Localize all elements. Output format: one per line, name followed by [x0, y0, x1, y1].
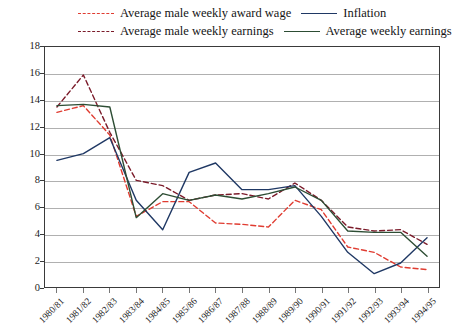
x-axis-tick-mark: [109, 288, 110, 293]
x-axis-tick-mark: [348, 288, 349, 293]
series-line: [57, 106, 427, 270]
x-axis-tick-mark: [83, 288, 84, 293]
legend-label: Average weekly earnings: [326, 24, 452, 38]
legend-item-average-weekly-earnings[interactable]: Average weekly earnings: [284, 24, 452, 38]
y-axis: 024681012141618: [0, 41, 40, 293]
y-axis-tick-label: 6: [0, 202, 40, 212]
legend-swatch-icon: [301, 13, 337, 14]
legend-label: Average male weekly award wage: [120, 6, 291, 20]
plot-area: [44, 46, 440, 288]
x-axis-tick-mark: [189, 288, 190, 293]
series-lines: [45, 47, 439, 287]
y-axis-tick-label: 14: [0, 95, 40, 105]
x-axis: 1980/811981/821982/831983/841984/851985/…: [44, 288, 440, 336]
legend-row-1: Average male weekly award wage Inflation: [0, 4, 444, 22]
chart-legend: Average male weekly award wage Inflation…: [0, 2, 444, 42]
x-axis-tick-mark: [162, 288, 163, 293]
legend-label: Inflation: [343, 6, 386, 20]
legend-swatch-icon: [284, 31, 320, 32]
legend-label: Average male weekly earnings: [120, 24, 274, 38]
legend-row-2: Average male weekly earnings Average wee…: [0, 22, 444, 40]
y-axis-tick-label: 12: [0, 122, 40, 132]
x-axis-tick-mark: [428, 288, 429, 293]
x-axis-tick-mark: [269, 288, 270, 293]
y-axis-tick-label: 0: [0, 283, 40, 293]
y-axis-tick-label: 8: [0, 175, 40, 185]
legend-swatch-icon: [78, 13, 114, 14]
x-axis-tick-mark: [295, 288, 296, 293]
y-axis-tick-label: 2: [0, 256, 40, 266]
series-line: [57, 104, 427, 256]
y-axis-tick-label: 10: [0, 149, 40, 159]
y-axis-tick-label: 16: [0, 68, 40, 78]
x-axis-tick-mark: [136, 288, 137, 293]
x-axis-tick-mark: [215, 288, 216, 293]
x-axis-tick-mark: [375, 288, 376, 293]
legend-item-inflation[interactable]: Inflation: [301, 6, 386, 20]
x-axis-tick-mark: [242, 288, 243, 293]
x-axis-tick-mark: [401, 288, 402, 293]
y-axis-tick-label: 4: [0, 229, 40, 239]
legend-item-average-male-weekly-earnings[interactable]: Average male weekly earnings: [78, 24, 274, 38]
y-axis-tick-label: 18: [0, 41, 40, 51]
x-axis-tick-label-text: 1980/81: [37, 296, 66, 325]
legend-item-average-male-weekly-award-wage[interactable]: Average male weekly award wage: [78, 6, 291, 20]
x-axis-tick-mark: [322, 288, 323, 293]
x-axis-tick-mark: [56, 288, 57, 293]
series-line: [57, 138, 427, 274]
legend-swatch-icon: [78, 31, 114, 32]
series-line: [57, 75, 427, 244]
